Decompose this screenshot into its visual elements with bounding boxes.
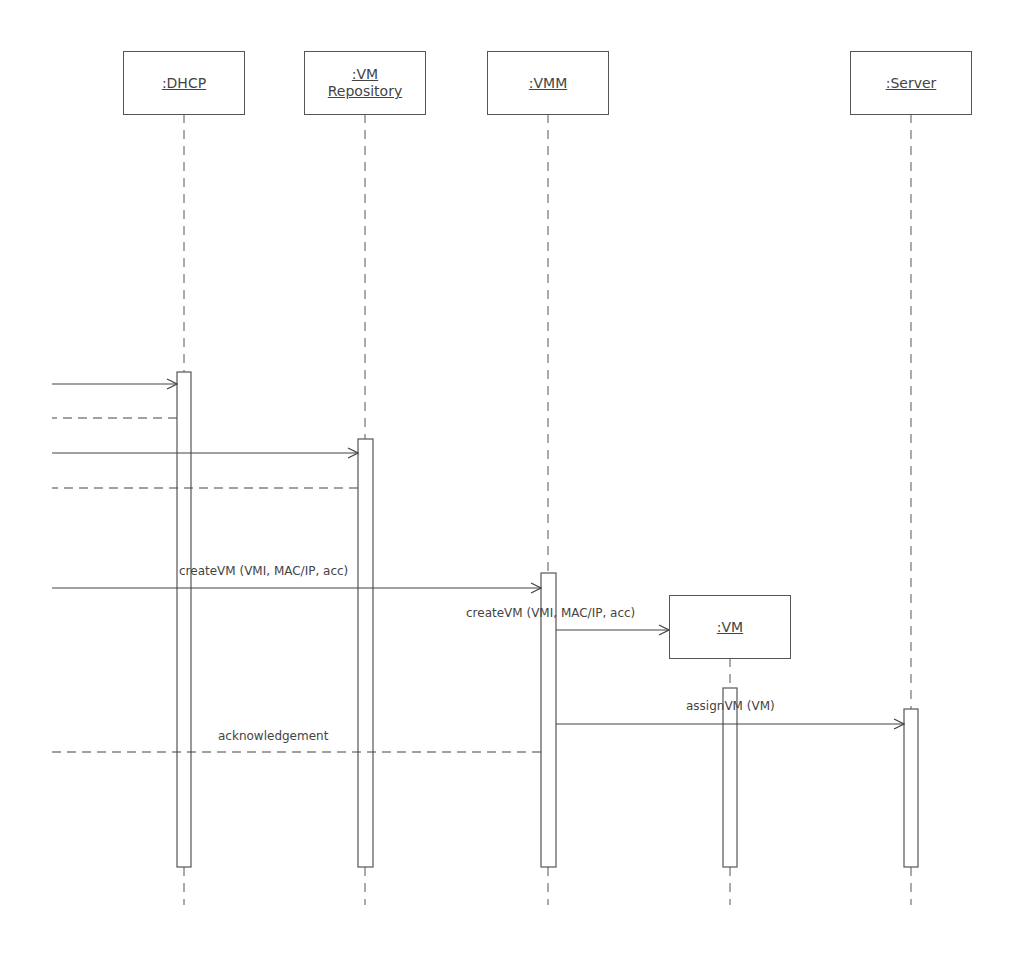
lifeline-box-vm: :VM [669,595,791,659]
activation-vm-repository [358,439,373,867]
lifeline-label-server: :Server [886,75,937,92]
lifeline-label-vm-repository-line2: Repository [328,83,402,100]
lifeline-label-vmm: :VMM [529,75,567,92]
activation-dhcp [177,372,191,867]
lifeline-label-vm-repository-line1: :VM [352,66,378,83]
lifeline-box-vm-repository: :VM Repository [304,51,426,115]
lifeline-box-vmm: :VMM [487,51,609,115]
activation-vm [723,688,737,867]
lifeline-box-dhcp: :DHCP [123,51,245,115]
message-label-assignvm: assignVM (VM) [686,699,775,713]
lifeline-label-dhcp: :DHCP [162,75,206,92]
lifeline-box-server: :Server [850,51,972,115]
message-label-acknowledgement: acknowledgement [218,729,328,743]
message-label-createvm-to-vm: createVM (VMI, MAC/IP, acc) [466,606,635,620]
activation-server [904,709,918,867]
sequence-diagram-canvas [0,0,1018,959]
lifeline-label-vm: :VM [717,619,743,636]
message-label-createvm-to-vmm: createVM (VMI, MAC/IP, acc) [179,564,348,578]
